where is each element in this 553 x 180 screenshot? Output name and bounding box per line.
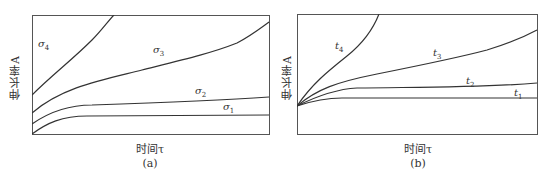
x-axis-label-b: 时间τ [368,140,468,156]
plot-svg-b [297,14,538,135]
curve-sigma4 [32,15,114,95]
x-axis-label-a: 时间τ [100,140,200,156]
y-axis-label-a: 伸长率A [8,55,24,100]
series-label-t3: t3 [433,47,442,61]
series-label-sigma3: σ3 [153,44,164,58]
chart-panel-a: 伸长率A σ4 σ3 σ2 σ1 时间τ (a) [0,0,280,180]
caption-a: (a) [130,157,170,170]
curve-t2 [297,83,537,106]
curve-sigma1 [32,115,269,134]
plot-area-b [297,14,538,135]
series-label-t1: t1 [514,87,523,101]
series-label-sigma4: σ4 [38,38,49,52]
caption-b: (b) [398,157,438,170]
series-label-sigma1: σ1 [223,101,234,115]
series-label-t2: t2 [466,75,475,89]
curve-t4 [297,14,379,106]
series-label-sigma2: σ2 [195,85,206,99]
plot-area-a [32,15,270,135]
y-axis-label-b: 伸长率A [280,55,296,100]
plot-svg-a [32,15,270,135]
series-label-t4: t4 [335,40,344,54]
curve-t1 [297,98,537,106]
chart-panel-b: 伸长率A t4 t3 t2 t1 时间τ (b) [270,0,553,180]
